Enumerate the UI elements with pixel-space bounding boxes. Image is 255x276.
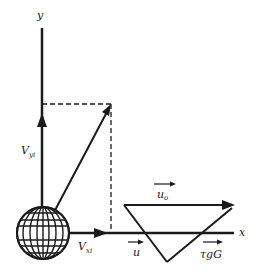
vx-arrowhead-icon [94,228,108,238]
u0-label-group: uo [154,182,176,203]
svg-text:u: u [133,246,140,259]
velocity-diagram: y Vyi x Vxi [0,0,255,276]
svg-text:τgG: τgG [200,248,222,261]
y-axis-label: y [36,9,44,22]
svg-text:uo: uo [157,188,168,202]
resultant-arrowhead-icon [102,104,111,116]
vy-arrowhead-icon [37,113,47,127]
tgG-label-group: τgG [200,240,223,262]
x-axis-label: x [239,226,246,239]
globe-icon [17,207,69,259]
u0-arrowhead-icon [222,200,235,210]
vy-label: Vyi [21,144,35,159]
u-label-group: u [128,240,144,260]
vx-label: Vxi [78,240,92,255]
